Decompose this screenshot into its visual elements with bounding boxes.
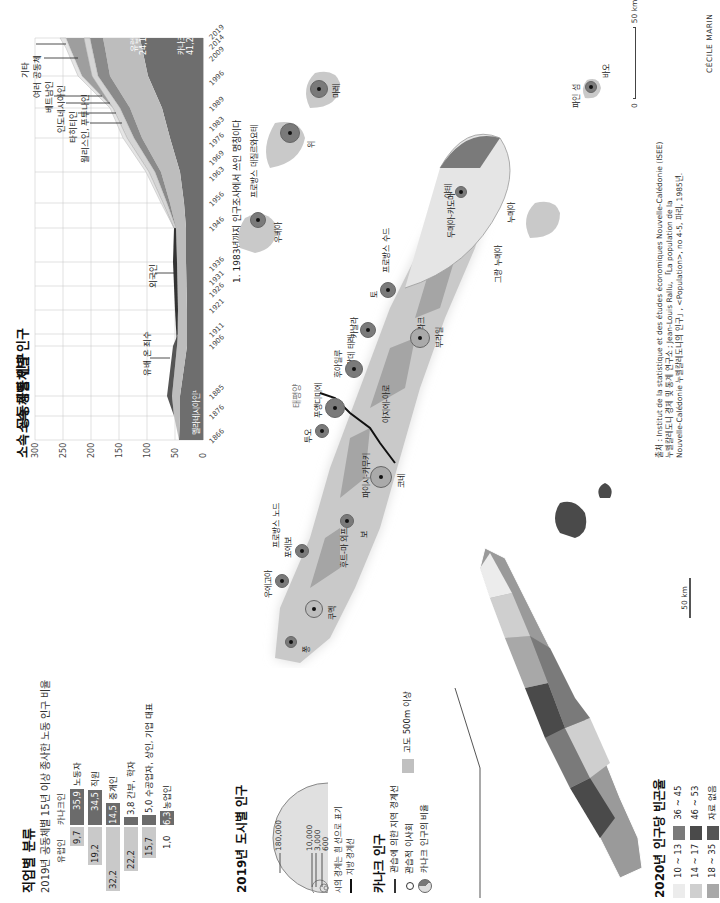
col-kanak: 카나크인: [54, 793, 66, 825]
ocean-label: 태평양: [290, 384, 303, 408]
scale-label: 50 km: [630, 0, 639, 23]
province-south-label: 프로방스 수드: [380, 228, 391, 273]
town-label: 포에보: [282, 537, 293, 558]
y-tick: 0: [199, 453, 208, 458]
chart-title-heading: 소속 공동체별 인구: [12, 353, 31, 458]
main-map: 태평양 프로방스 노드 프로방스 수드 프로방스 데질르와요테 후트-마 외프 …: [230, 68, 660, 668]
town-label: 우베아: [272, 222, 283, 243]
town-label: 카날라: [348, 317, 359, 338]
occupation-subtitle: 2019년 공동체별 15년 이상 종사한 노동 인구 비율: [37, 593, 52, 893]
kanak-legend: 카나크 인구 관습에 의한 지역 경계선 관습적 이사회 카나크 인구의 비율 …: [370, 673, 440, 893]
legend-label: 관습적 이사회: [404, 823, 414, 874]
kanak-bar: 14,5: [106, 803, 120, 825]
occupation-panel: 직업별 분류 2019년 공동체별 15년 이상 종사한 노동 인구 비율 유럽…: [18, 593, 218, 893]
town-label: 위: [305, 141, 316, 148]
poverty-swatch: [707, 884, 719, 898]
poverty-swatch: [690, 826, 702, 840]
town-marker: [310, 80, 328, 98]
town-label: 누메아: [505, 202, 516, 223]
poverty-swatch: [690, 884, 702, 898]
town-label: 코네: [395, 474, 406, 488]
town-label: 마레: [330, 84, 341, 98]
series-label-vietnamese: 베트남인: [42, 81, 54, 113]
town-marker: [410, 328, 430, 348]
town-marker: [370, 466, 392, 488]
no-data-label: 자료 없음: [707, 785, 717, 820]
no-data-swatch: [707, 826, 719, 840]
town-marker: [455, 186, 467, 198]
european-value: 1,0: [160, 835, 174, 849]
altitude-swatch-icon: [402, 759, 414, 773]
y-tick: 50: [171, 448, 180, 458]
custom-area-label: 두메아-카도마: [445, 193, 456, 238]
poverty-legend: 2020년 인구당 빈곤율 10 ~ 13 14 ~ 17 18 ~ 35 36…: [650, 779, 720, 898]
poverty-swatch: [673, 826, 685, 840]
occupation-label: 중개인: [106, 776, 120, 800]
region-border-line-icon: [350, 879, 352, 893]
poverty-title: 2020년 인구당 빈곤율: [650, 779, 667, 898]
series-label-convicts: 유배 온 죄수: [140, 331, 152, 376]
proportional-circles: [250, 743, 330, 893]
town-marker: [360, 322, 376, 338]
custom-boundary-line-icon: [394, 879, 396, 893]
city-boundary-note: 시의 경계는 흰 선으로 표기: [332, 806, 343, 893]
series-label-multi: 여러 공동체: [30, 55, 42, 98]
legend-label: 관습에 의한 지역 경계선: [389, 785, 399, 873]
town-label: 파인 섬: [570, 84, 581, 108]
poverty-range: 18 ~ 35: [707, 844, 717, 878]
series-label-wallisian: 월리스인, 푸투나인: [78, 94, 90, 163]
axis-divider: [68, 826, 176, 827]
occupation-label: 간부, 학자: [126, 761, 136, 798]
occupation-label: 수공업자, 상인, 기업 대표: [144, 703, 154, 797]
svg-text:1989: 1989: [208, 95, 225, 113]
y-tick: 250: [59, 443, 68, 458]
y-tick: 300: [31, 443, 40, 458]
col-european: 유럽인: [54, 839, 66, 863]
svg-text:1956: 1956: [208, 190, 225, 209]
y-tick: 100: [143, 443, 152, 458]
y-tick: 150: [115, 443, 124, 458]
town-label: 후아일루: [332, 350, 343, 378]
kanak-value: 3,8: [126, 801, 136, 815]
occupation-title: 직업별 분류: [18, 593, 37, 893]
source-line: Nouvelle-Calédonie 누벨칼레도니의 인구」, <Populat…: [675, 141, 685, 458]
town-marker: [315, 424, 329, 438]
town-marker: [250, 212, 266, 228]
svg-text:1976: 1976: [208, 131, 225, 150]
kanak-bar: [124, 817, 138, 825]
scale-zero: 0: [630, 103, 639, 108]
european-bar: 9,7: [70, 827, 84, 846]
town-label: 토: [368, 291, 379, 298]
town-label: 푸앵디미에: [312, 383, 323, 418]
province-north-label: 프로방스 노드: [270, 503, 281, 548]
town-label: 야테: [442, 184, 453, 198]
occupation-bars: 9,7 35,9 노동자 19,2 34,5 직원 32,2 14,5 중개인 …: [70, 593, 210, 893]
town-label: 우에고아: [262, 570, 273, 598]
occupation-label: 직원: [88, 771, 102, 787]
town-marker: [380, 282, 396, 298]
town-marker: [585, 81, 597, 93]
town-label: 부라일: [433, 327, 444, 348]
kanak-legend-title: 카나크 인구: [370, 673, 387, 893]
town-marker: [325, 398, 345, 418]
kanak-bar: 35,9: [70, 789, 84, 825]
poverty-range: 46 ~ 53: [690, 786, 700, 820]
poverty-range: 10 ~ 13: [673, 844, 683, 878]
svg-text:1866: 1866: [208, 427, 225, 446]
town-label: 쿠멕: [326, 606, 337, 620]
source-line: 누벨칼레도니 경제 및 통계 연구소 ; Jean-Louis Rallu, 「…: [665, 141, 675, 458]
map-scale-bar: 050 km: [630, 0, 639, 108]
custom-council-circle-icon: [406, 882, 414, 890]
svg-text:1946: 1946: [208, 215, 225, 234]
province-islands-label: 프로방스 데질르와요테: [248, 125, 259, 198]
y-tick: 200: [87, 443, 96, 458]
occupation-label: 농업인: [160, 785, 174, 809]
town-marker: [280, 123, 300, 143]
town-marker: [275, 574, 289, 588]
series-label-tahitian: 타히티인: [66, 111, 78, 143]
svg-text:1936: 1936: [208, 255, 225, 274]
series-label-melanesian: 멜라네시아인¹: [190, 390, 201, 435]
poverty-range: 36 ~ 45: [673, 786, 683, 820]
poverty-swatch: [673, 884, 685, 898]
european-bar: 15,7: [142, 827, 156, 858]
